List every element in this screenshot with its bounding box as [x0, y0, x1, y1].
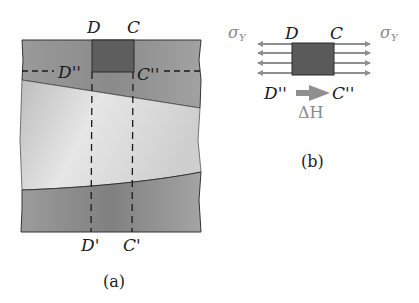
left-stress-arrows — [258, 44, 292, 73]
label-d: D — [86, 17, 101, 37]
delta-h-label: ΔH — [298, 103, 324, 122]
label-c-double-prime-b: C'' — [332, 83, 354, 103]
displacement-arrow — [296, 85, 330, 101]
panel-b: σY σY D C D'' C'' ΔH (b) — [228, 23, 399, 171]
label-c-double-prime: C'' — [137, 64, 159, 84]
right-stress-arrows — [334, 44, 370, 73]
label-d-b: D — [284, 23, 299, 43]
label-c: C — [127, 17, 140, 37]
element-square-b — [292, 43, 334, 75]
label-c-prime: C' — [123, 235, 141, 255]
panel-a: D C D'' C'' D' C' (a) — [20, 17, 201, 291]
element-square — [92, 40, 134, 72]
shear-deformation-figure: D C D'' C'' D' C' (a) σY σY — [0, 0, 419, 303]
sigma-y-left: σY — [228, 23, 247, 43]
label-d-double-prime: D'' — [57, 62, 81, 82]
caption-b: (b) — [301, 152, 324, 171]
caption-a: (a) — [103, 272, 125, 291]
label-d-double-prime-b: D'' — [263, 83, 287, 103]
label-c-b: C — [330, 23, 343, 43]
sigma-y-right: σY — [380, 23, 399, 43]
label-d-prime: D' — [80, 235, 99, 255]
